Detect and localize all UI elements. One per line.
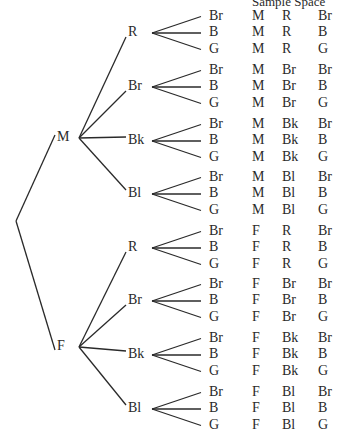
sample-space-cell: Br xyxy=(318,63,332,77)
sample-space-cell: B xyxy=(318,240,327,254)
sample-space-cell: F xyxy=(252,385,260,399)
branch-F-Bl-Br xyxy=(152,393,201,410)
node-m-br: Br xyxy=(128,79,142,93)
sample-space-cell: Bk xyxy=(282,364,298,378)
sample-space-cell: R xyxy=(282,9,291,23)
leaf-label: Br xyxy=(209,9,223,23)
sample-space-cell: Bl xyxy=(282,203,295,217)
sample-space-cell: Br xyxy=(318,224,332,238)
leaf-label: Br xyxy=(209,224,223,238)
sample-space-cell: B xyxy=(318,25,327,39)
leaf-label: Br xyxy=(209,63,223,77)
sample-space-cell: F xyxy=(252,331,260,345)
leaf-label: Br xyxy=(209,117,223,131)
branch-F-Bk-G xyxy=(152,355,201,372)
branch-F-Bk xyxy=(79,347,126,351)
node-m: M xyxy=(57,130,69,144)
sample-space-cell: Bl xyxy=(282,418,295,432)
leaf-label: G xyxy=(209,150,219,164)
leaf-label: B xyxy=(209,186,218,200)
sample-space-cell: F xyxy=(252,224,260,238)
leaf-label: G xyxy=(209,96,219,110)
leaf-label: B xyxy=(209,401,218,415)
leaf-label: B xyxy=(209,133,218,147)
sample-space-cell: Br xyxy=(318,385,332,399)
branch-F-Bl xyxy=(79,347,126,405)
sample-space-cell: F xyxy=(252,310,260,324)
branch-F-Bk-Br xyxy=(152,339,201,356)
branch-F-Br-G xyxy=(152,301,201,318)
sample-space-cell: Bl xyxy=(282,186,295,200)
sample-space-cell: Bk xyxy=(282,150,298,164)
leaf-label: G xyxy=(209,42,219,56)
sample-space-cell: M xyxy=(252,133,264,147)
sample-space-cell: G xyxy=(318,96,328,110)
sample-space-cell: Br xyxy=(282,63,296,77)
sample-space-cell: F xyxy=(252,293,260,307)
sample-space-cell: M xyxy=(252,150,264,164)
sample-space-cell: G xyxy=(318,364,328,378)
sample-space-cell: Br xyxy=(318,331,332,345)
sample-space-cell: R xyxy=(282,257,291,271)
sample-space-cell: Br xyxy=(318,117,332,131)
sample-space-cell: G xyxy=(318,257,328,271)
sample-space-cell: Br xyxy=(282,96,296,110)
branch-root-F xyxy=(16,221,55,350)
branch-M-Bk xyxy=(79,137,126,138)
sample-space-cell: Br xyxy=(318,170,332,184)
sample-space-cell: Br xyxy=(282,293,296,307)
sample-space-cell: M xyxy=(252,79,264,93)
sample-space-cell: F xyxy=(252,347,260,361)
sample-space-cell: Bk xyxy=(282,331,298,345)
sample-space-cell: B xyxy=(318,293,327,307)
branch-M-Bl-G xyxy=(152,194,201,211)
leaf-label: B xyxy=(209,25,218,39)
sample-space-cell: B xyxy=(318,79,327,93)
sample-space-cell: Br xyxy=(318,277,332,291)
branch-M-Bk-G xyxy=(152,141,201,158)
branch-M-Bl xyxy=(79,138,126,190)
sample-space-cell: R xyxy=(282,42,291,56)
sample-space-header: Sample Space xyxy=(252,0,325,8)
leaf-label: B xyxy=(209,240,218,254)
sample-space-cell: F xyxy=(252,240,260,254)
sample-space-cell: M xyxy=(252,186,264,200)
sample-space-cell: Bl xyxy=(282,401,295,415)
leaf-label: B xyxy=(209,347,218,361)
sample-space-cell: Br xyxy=(282,79,296,93)
branch-F-Bl-G xyxy=(152,409,201,426)
sample-space-cell: G xyxy=(318,42,328,56)
sample-space-cell: Bl xyxy=(282,385,295,399)
sample-space-cell: B xyxy=(318,133,327,147)
node-m-r: R xyxy=(128,25,137,39)
branch-M-R-G xyxy=(152,33,201,50)
node-m-bl: Bl xyxy=(128,186,141,200)
sample-space-cell: R xyxy=(282,240,291,254)
sample-space-cell: M xyxy=(252,203,264,217)
branch-M-Br-Br xyxy=(152,71,201,88)
sample-space-cell: R xyxy=(282,224,291,238)
sample-space-cell: G xyxy=(318,418,328,432)
sample-space-cell: Bk xyxy=(282,117,298,131)
leaf-label: G xyxy=(209,257,219,271)
node-f: F xyxy=(57,339,65,353)
branch-M-Bl-Br xyxy=(152,178,201,195)
sample-space-cell: Bk xyxy=(282,347,298,361)
leaf-label: Br xyxy=(209,385,223,399)
sample-space-cell: M xyxy=(252,170,264,184)
branch-F-Br-Br xyxy=(152,285,201,302)
sample-space-cell: Bl xyxy=(282,170,295,184)
leaf-label: B xyxy=(209,79,218,93)
sample-space-cell: F xyxy=(252,401,260,415)
branch-F-R-Br xyxy=(152,232,201,249)
node-f-br: Br xyxy=(128,293,142,307)
sample-space-cell: F xyxy=(252,277,260,291)
sample-space-cell: G xyxy=(318,310,328,324)
sample-space-cell: Bk xyxy=(282,133,298,147)
sample-space-cell: B xyxy=(318,401,327,415)
sample-space-cell: B xyxy=(318,347,327,361)
sample-space-cell: Br xyxy=(318,9,332,23)
sample-space-cell: F xyxy=(252,257,260,271)
sample-space-cell: F xyxy=(252,364,260,378)
branch-F-R-G xyxy=(152,248,201,265)
